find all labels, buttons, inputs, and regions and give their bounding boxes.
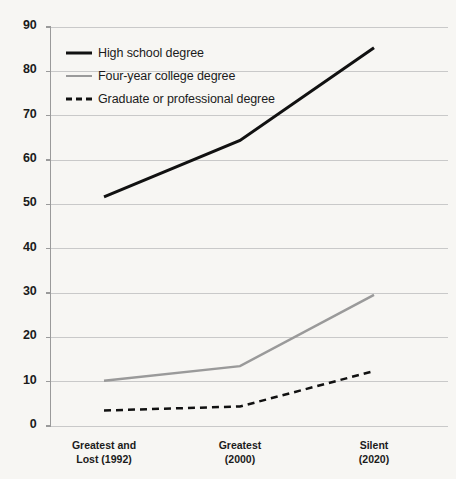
y-axis-label: 30 <box>7 284 37 298</box>
legend-label: Four-year college degree <box>98 69 235 83</box>
legend-item-1: Four-year college degree <box>66 67 235 85</box>
legend-item-0: High school degree <box>66 44 204 62</box>
x-axis-category-line: (2020) <box>314 453 434 467</box>
y-axis-label: 90 <box>7 18 37 32</box>
x-axis-category-line: (2000) <box>180 453 300 467</box>
x-axis-category-label: Greatest andLost (1992) <box>44 439 164 466</box>
y-axis-label: 0 <box>7 417 37 431</box>
legend-swatch-icon <box>66 93 92 105</box>
x-axis-category-label: Silent(2020) <box>314 439 434 466</box>
legend-item-2: Graduate or professional degree <box>66 90 275 108</box>
y-axis-label: 10 <box>7 373 37 387</box>
y-axis-label: 60 <box>7 151 37 165</box>
y-axis-label: 70 <box>7 107 37 121</box>
y-axis-label: 40 <box>7 240 37 254</box>
legend-swatch-icon <box>66 47 92 59</box>
x-axis-category-line: Greatest and <box>44 439 164 453</box>
x-axis-category-line: Greatest <box>180 439 300 453</box>
legend-swatch-icon <box>66 70 92 82</box>
y-axis-label: 50 <box>7 195 37 209</box>
y-axis-label: 20 <box>7 328 37 342</box>
x-axis-category-line: Lost (1992) <box>44 453 164 467</box>
x-axis-category-label: Greatest(2000) <box>180 439 300 466</box>
line-chart: 0102030405060708090Greatest andLost (199… <box>0 0 456 479</box>
x-axis-category-line: Silent <box>314 439 434 453</box>
y-axis-label: 80 <box>7 62 37 76</box>
legend-label: High school degree <box>98 46 204 60</box>
legend-label: Graduate or professional degree <box>98 92 275 106</box>
